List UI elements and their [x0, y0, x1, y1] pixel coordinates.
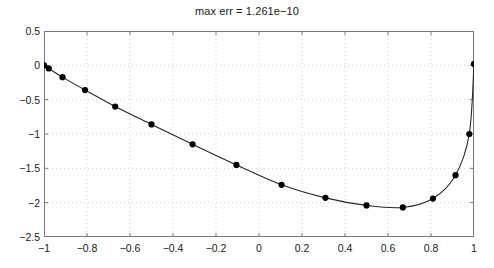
data-point-marker: [430, 195, 436, 201]
y-tick-label: 0.5: [25, 25, 40, 37]
x-tick-label: −0.8: [77, 242, 98, 254]
data-point-marker: [46, 65, 52, 71]
x-tick-label: 1: [471, 242, 477, 254]
data-point-marker: [471, 61, 474, 67]
y-tick-label: 0: [34, 59, 40, 71]
x-tick-label: 0.8: [424, 242, 439, 254]
plot-area: [44, 31, 474, 237]
y-tick-label: −2.5: [19, 231, 40, 243]
y-axis-tick-labels: 0.5 0 −0.5 −1 −1.5 −2 −2.5: [0, 31, 40, 237]
x-axis-tick-labels: −1 −0.8 −0.6 −0.4 −0.2 0 0.2 0.4 0.6 0.8…: [44, 240, 474, 260]
data-point-marker: [112, 103, 118, 109]
x-tick-label: 0.4: [338, 242, 353, 254]
data-point-marker: [82, 87, 88, 93]
x-tick-label: 0: [256, 242, 262, 254]
data-point-marker: [363, 202, 369, 208]
data-point-marker: [148, 121, 154, 127]
figure-canvas: max err = 1.261e−10 0.5 0 −0.5 −1 −1.5 −…: [0, 0, 494, 268]
x-tick-label: −0.2: [206, 242, 227, 254]
y-tick-label: −0.5: [19, 94, 40, 106]
data-point-marker: [322, 195, 328, 201]
data-point-marker: [233, 162, 239, 168]
chart-title: max err = 1.261e−10: [0, 5, 494, 17]
y-tick-label: −1.5: [19, 162, 40, 174]
data-point-marker: [400, 204, 406, 210]
y-tick-label: −2: [28, 197, 40, 209]
x-tick-label: −0.4: [163, 242, 184, 254]
x-tick-label: −0.6: [120, 242, 141, 254]
data-point-marker: [278, 182, 284, 188]
data-point-marker: [452, 172, 458, 178]
data-point-marker: [59, 74, 65, 80]
plot-svg: [44, 31, 474, 237]
x-tick-label: 0.6: [381, 242, 396, 254]
data-point-marker: [189, 141, 195, 147]
x-tick-label: −1: [38, 242, 50, 254]
data-point-marker: [466, 131, 472, 137]
x-tick-label: 0.2: [295, 242, 310, 254]
y-tick-label: −1: [28, 128, 40, 140]
